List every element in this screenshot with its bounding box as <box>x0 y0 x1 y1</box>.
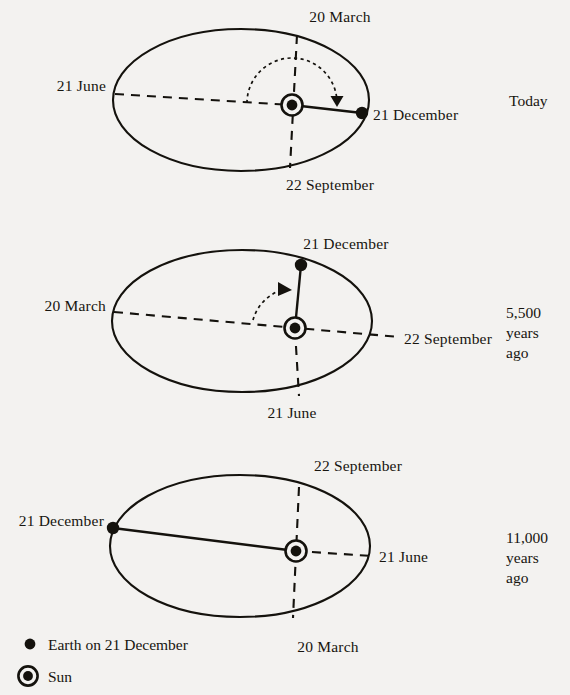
sun-symbol-11000 <box>286 541 307 562</box>
label-5500-top: 21 December <box>303 235 389 252</box>
panel-today: 20 March 22 September 21 June 21 Decembe… <box>57 8 548 193</box>
precession-figure: 20 March 22 September 21 June 21 Decembe… <box>0 0 570 695</box>
earth-dot-5500 <box>295 259 307 271</box>
label-today-bottom: 22 September <box>286 176 375 193</box>
orbit-ellipse-11000 <box>110 475 370 617</box>
precession-arrow-head-5500 <box>278 282 292 296</box>
panel-5500: 21 December 21 June 20 March 22 Septembe… <box>45 235 542 421</box>
label-5500-left: 20 March <box>45 297 106 314</box>
panel-11000: 22 September 20 March 21 December 21 Jun… <box>19 457 549 655</box>
era-label-5500-line2: years <box>506 324 539 341</box>
label-5500-bottom: 21 June <box>267 404 316 421</box>
era-label-11000-line3: ago <box>506 569 529 586</box>
earth-dot-11000 <box>107 522 119 534</box>
legend-item-sun: Sun <box>18 666 72 685</box>
orbit-ellipse-today <box>113 29 369 171</box>
legend-label-sun: Sun <box>48 668 72 685</box>
sun-symbol-today <box>282 95 303 116</box>
era-label-5500-line1: 5,500 <box>506 304 541 321</box>
precession-arrow-head-today <box>331 96 344 107</box>
sun-symbol-5500 <box>285 318 306 339</box>
era-label-5500-line3: ago <box>506 344 529 361</box>
era-label-today: Today <box>509 92 548 109</box>
earth-to-sun-line-11000 <box>113 528 296 551</box>
label-today-top: 20 March <box>309 8 370 25</box>
filled-dot-icon <box>25 639 36 650</box>
label-11000-left: 21 December <box>19 512 105 529</box>
legend-item-earth: Earth on 21 December <box>25 636 189 653</box>
label-11000-bottom: 20 March <box>297 638 358 655</box>
sun-circle-dot-icon-inner <box>23 671 33 681</box>
label-11000-top: 22 September <box>314 457 403 474</box>
orbit-ellipse-5500 <box>112 250 372 392</box>
label-11000-right: 21 June <box>379 548 428 565</box>
label-5500-right: 22 September <box>404 330 493 347</box>
label-today-right: 21 December <box>373 106 459 123</box>
june-december-axis-dashed <box>115 94 292 105</box>
era-label-11000-line1: 11,000 <box>506 529 548 546</box>
legend-label-earth: Earth on 21 December <box>48 636 189 653</box>
legend: Earth on 21 December Sun <box>18 636 188 686</box>
earth-dot-today <box>356 107 368 119</box>
label-today-left: 21 June <box>57 77 106 94</box>
march-september-axis-dashed-5500 <box>114 312 399 337</box>
era-label-11000-line2: years <box>506 549 539 566</box>
